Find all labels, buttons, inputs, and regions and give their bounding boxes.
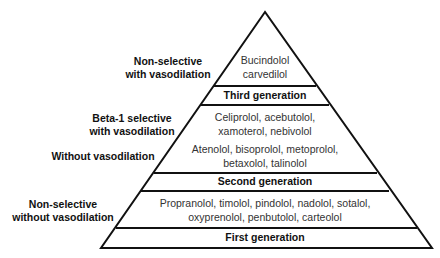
label-nonselective-without-vasodilation: Non-selective without vasodilation: [8, 198, 118, 224]
label-without-vasodilation: Without vasodilation: [48, 150, 158, 163]
label-nonselective-with-vasodilation: Non-selective with vasodilation: [118, 55, 218, 81]
drugs-beta1-with-vasodilation: Celiprolol, acebutolol, xamoterol, nebiv…: [200, 111, 330, 138]
drugs-third-generation: Bucindolol carvedilol: [215, 54, 315, 81]
label-line: Non-selective: [8, 198, 118, 211]
first-generation-label: First generation: [200, 231, 330, 243]
label-line: with vasodilation: [82, 125, 182, 138]
drug-line: Atenolol, bisoprolol, metoprolol,: [185, 143, 345, 157]
drug-line: xamoterol, nebivolol: [200, 125, 330, 139]
drug-line: Celiprolol, acebutolol,: [200, 111, 330, 125]
drug-line: oxyprenolol, penbutolol, carteolol: [150, 211, 380, 225]
second-generation-label: Second generation: [200, 175, 330, 187]
drug-line: Propranolol, timolol, pindolol, nadolol,…: [150, 197, 380, 211]
label-line: without vasodilation: [8, 211, 118, 224]
drug-line: betaxolol, talinolol: [185, 157, 345, 171]
label-line: Without vasodilation: [48, 150, 158, 163]
drugs-beta1-without-vasodilation: Atenolol, bisoprolol, metoprolol, betaxo…: [185, 143, 345, 170]
drug-line: Bucindolol: [215, 54, 315, 68]
drugs-first-generation: Propranolol, timolol, pindolol, nadolol,…: [150, 197, 380, 224]
drug-line: carvedilol: [215, 68, 315, 82]
label-beta1-selective-with-vasodilation: Beta-1 selective with vasodilation: [82, 112, 182, 138]
label-line: Non-selective: [118, 55, 218, 68]
label-line: with vasodilation: [118, 68, 218, 81]
third-generation-label: Third generation: [205, 89, 325, 101]
label-line: Beta-1 selective: [82, 112, 182, 125]
